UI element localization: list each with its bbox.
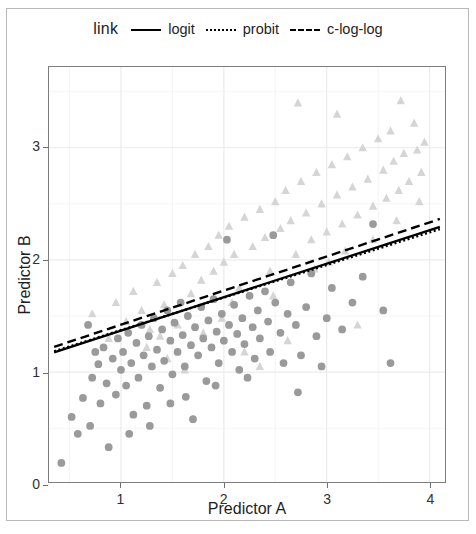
legend-label-c-log-log: c-log-log: [327, 21, 383, 37]
legend-item-logit[interactable]: logit: [131, 21, 195, 37]
legend-key-dotted-line-icon: [206, 24, 236, 35]
grid-minor-lines: [49, 67, 445, 482]
legend-item-probit[interactable]: probit: [206, 21, 279, 37]
y-tick-mark: [43, 260, 48, 261]
grid-major-lines: [49, 67, 445, 482]
legend-item-c-log-log[interactable]: c-log-log: [290, 21, 383, 37]
legend-label-probit: probit: [243, 21, 279, 37]
y-tick-label: 3: [14, 138, 40, 154]
y-tick-mark: [43, 147, 48, 148]
plot-canvas: [49, 67, 445, 482]
x-axis-title: Predictor A: [48, 500, 446, 518]
y-tick-mark: [43, 373, 48, 374]
legend-key-dashed-line-icon: [290, 24, 320, 35]
legend-key-solid-line-icon: [131, 24, 161, 35]
legend-title: link: [93, 20, 118, 38]
y-tick-label: 0: [14, 476, 40, 492]
y-tick-mark: [43, 485, 48, 486]
fit-lines: [54, 219, 440, 352]
y-axis-title: Predictor B: [16, 175, 34, 375]
x-tick-mark: [120, 483, 121, 488]
x-tick-mark: [430, 483, 431, 488]
x-tick-mark: [327, 483, 328, 488]
legend-label-logit: logit: [168, 21, 195, 37]
legend: link logit probit c-log-log: [0, 16, 476, 42]
plot-panel: [48, 66, 446, 483]
scatter-triangles: [88, 96, 429, 373]
x-tick-mark: [224, 483, 225, 488]
chart-figure: link logit probit c-log-log 12340123 Pre…: [0, 0, 476, 534]
